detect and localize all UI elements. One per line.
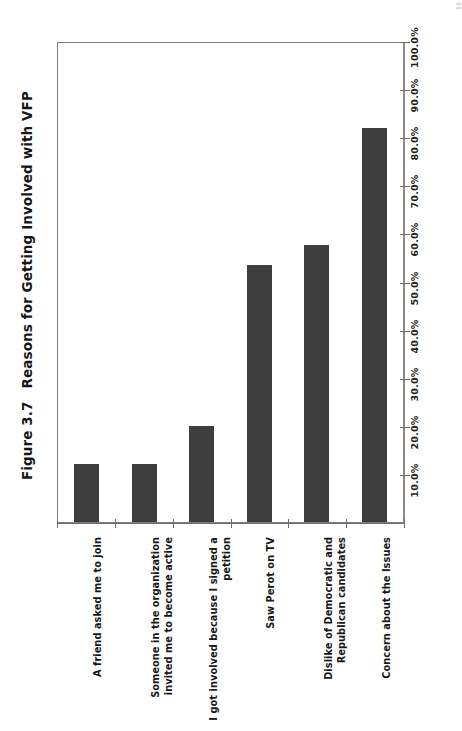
category-axis-label: I got involved because I signed a petiti… <box>207 537 233 727</box>
figure-title: Figure 3.7 Reasons for Getting Involved … <box>14 40 40 480</box>
category-axis-tick <box>404 519 405 528</box>
value-axis-tick-label: 20.0% <box>409 415 420 449</box>
category-axis-label: Saw Perot on TV <box>264 537 277 727</box>
category-axis-label: Dislike of Democratic and Republican can… <box>322 537 348 727</box>
category-label-slot: Dislike of Democratic and Republican can… <box>288 523 346 728</box>
category-label-slot: A friend asked me to join <box>57 523 115 728</box>
value-axis-tick-label: 80.0% <box>409 127 420 161</box>
bar-slot <box>58 43 116 522</box>
value-axis-tick-label: 10.0% <box>409 463 420 497</box>
bar-slot <box>173 43 231 522</box>
value-axis-tick-label: 70.0% <box>409 175 420 209</box>
category-label-slot: Concern about the Issues <box>346 523 404 728</box>
bar-series <box>58 43 403 522</box>
category-axis-label: A friend asked me to join <box>91 537 104 727</box>
value-axis-tick-label: 60.0% <box>409 223 420 257</box>
bar-slot <box>231 43 289 522</box>
bar[interactable] <box>304 245 329 522</box>
bar-slot <box>346 43 404 522</box>
bar[interactable] <box>247 265 272 522</box>
value-axis-tick-label: 30.0% <box>409 367 420 401</box>
figure-number: Figure 3.7 <box>19 401 35 480</box>
bar[interactable] <box>132 464 157 522</box>
category-label-slot: Saw Perot on TV <box>231 523 289 728</box>
page-number: 55 <box>455 2 462 10</box>
bar[interactable] <box>362 128 387 522</box>
category-axis-label: Concern about the Issues <box>380 537 393 727</box>
category-label-slot: I got involved because I signed a petiti… <box>173 523 231 728</box>
category-axis: A friend asked me to joinSomeone in the … <box>57 523 404 728</box>
bar[interactable] <box>189 426 214 522</box>
bar-slot <box>288 43 346 522</box>
category-axis-label: Someone in the organization invited me t… <box>149 537 175 727</box>
value-axis-tick-label: 90.0% <box>409 79 420 113</box>
figure-title-text: Reasons for Getting Involved with VFP <box>19 91 35 388</box>
category-label-slot: Someone in the organization invited me t… <box>115 523 173 728</box>
value-axis-tick-label: 50.0% <box>409 271 420 305</box>
value-axis-tick-label: 40.0% <box>409 319 420 353</box>
bar-slot <box>116 43 174 522</box>
value-axis-tick-label: 100.0% <box>409 27 420 68</box>
value-axis: 10.0%20.0%30.0%40.0%50.0%60.0%70.0%80.0%… <box>404 42 460 523</box>
bar[interactable] <box>74 464 99 522</box>
plot-area <box>57 42 404 523</box>
